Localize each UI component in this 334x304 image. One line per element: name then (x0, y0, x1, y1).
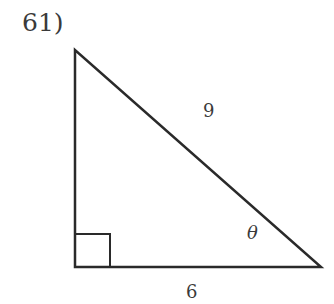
hypotenuse-label: 9 (203, 100, 214, 121)
angle-theta-label: θ (247, 222, 258, 243)
right-angle-marker (75, 234, 110, 267)
base-label: 6 (186, 281, 197, 302)
triangle-shape (75, 50, 321, 267)
right-triangle-diagram (0, 0, 334, 304)
